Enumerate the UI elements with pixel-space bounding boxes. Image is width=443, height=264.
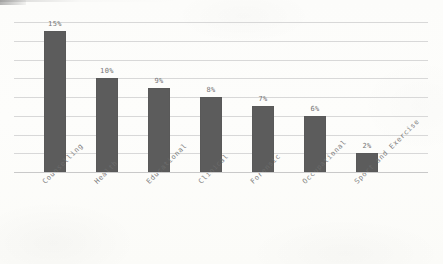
chart-page: 15%10%9%8%7%6%2% CounsellingHealthEducat… bbox=[0, 0, 443, 264]
bar-value-label: 15% bbox=[35, 20, 75, 28]
gridline bbox=[14, 60, 428, 61]
gridline bbox=[14, 78, 428, 79]
bar-value-label: 7% bbox=[243, 95, 283, 103]
bar-chart-plot-area: 15%10%9%8%7%6%2% CounsellingHealthEducat… bbox=[0, 0, 443, 264]
gridline bbox=[14, 22, 428, 23]
bar-value-label: 6% bbox=[295, 105, 335, 113]
bar bbox=[44, 31, 66, 172]
x-axis-baseline bbox=[14, 172, 428, 173]
category-label: Sport and Exercise bbox=[353, 117, 421, 185]
bar-value-label: 2% bbox=[347, 142, 387, 150]
bar-value-label: 8% bbox=[191, 86, 231, 94]
bar-value-label: 9% bbox=[139, 77, 179, 85]
gridline bbox=[14, 41, 428, 42]
bar bbox=[96, 78, 118, 172]
bar-value-label: 10% bbox=[87, 67, 127, 75]
